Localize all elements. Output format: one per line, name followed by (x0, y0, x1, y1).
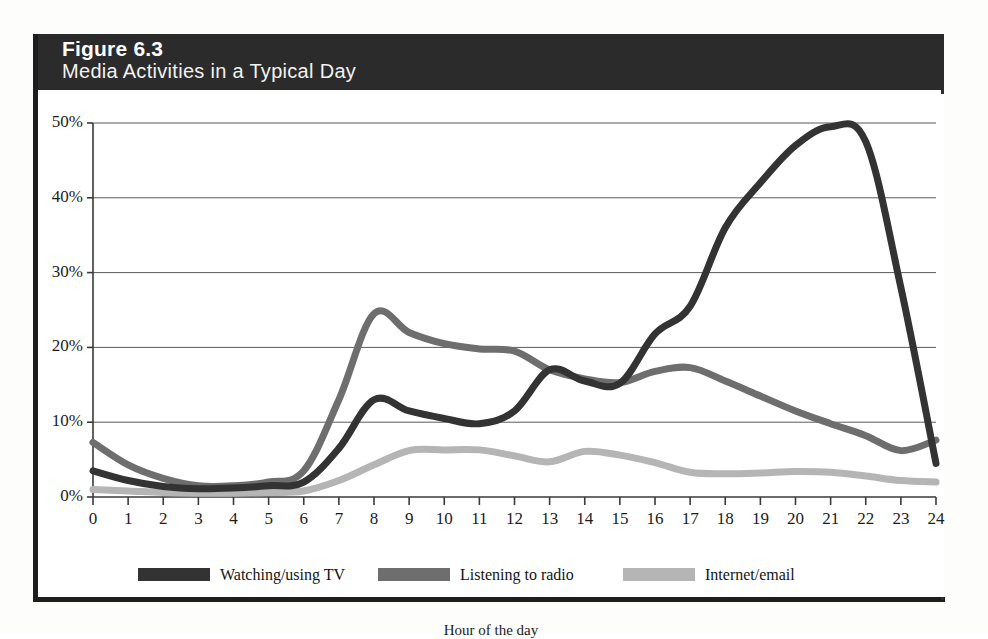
legend-label: Listening to radio (460, 566, 574, 584)
x-tick-label: 9 (394, 509, 424, 529)
x-tick-label: 17 (675, 509, 705, 529)
legend-swatch-icon (623, 568, 695, 581)
x-tick-label: 24 (921, 509, 951, 529)
x-tick-label: 13 (535, 509, 565, 529)
x-tick-label: 23 (886, 509, 916, 529)
frame-border-bottom (33, 597, 945, 602)
y-tick-label: 30% (31, 262, 83, 282)
x-tick-label: 5 (254, 509, 284, 529)
x-tick-label: 3 (183, 509, 213, 529)
x-tick-label: 4 (219, 509, 249, 529)
x-tick-label: 14 (570, 509, 600, 529)
x-tick-label: 19 (745, 509, 775, 529)
x-tick-label: 22 (851, 509, 881, 529)
plot-area: 0%10%20%30%40%50% 0123456789101112131415… (38, 94, 944, 597)
x-tick-label: 18 (710, 509, 740, 529)
x-tick-label: 0 (78, 509, 108, 529)
y-tick-label: 50% (31, 112, 83, 132)
x-axis-title: Hour of the day (38, 622, 944, 639)
x-tick-label: 15 (605, 509, 635, 529)
legend-label: Internet/email (705, 566, 795, 584)
x-tick-label: 10 (429, 509, 459, 529)
legend-item[interactable]: Listening to radio (378, 565, 574, 587)
legend-swatch-icon (138, 568, 210, 581)
figure-number: Figure 6.3 (62, 37, 163, 61)
legend-label: Watching/using TV (220, 566, 345, 584)
y-tick-label: 0% (31, 486, 83, 506)
x-tick-label: 2 (148, 509, 178, 529)
y-tick-label: 20% (31, 336, 83, 356)
x-tick-label: 1 (113, 509, 143, 529)
chart-legend: Watching/using TVListening to radioInter… (38, 565, 944, 591)
x-tick-label: 6 (289, 509, 319, 529)
figure-title: Media Activities in a Typical Day (62, 60, 356, 83)
series-line (93, 311, 936, 487)
y-tick-label: 40% (31, 187, 83, 207)
figure-header: Figure 6.3 Media Activities in a Typical… (38, 34, 944, 90)
x-tick-label: 12 (500, 509, 530, 529)
x-tick-label: 8 (359, 509, 389, 529)
x-tick-label: 21 (816, 509, 846, 529)
x-tick-label: 11 (464, 509, 494, 529)
x-tick-label: 20 (781, 509, 811, 529)
legend-item[interactable]: Internet/email (623, 565, 795, 587)
y-tick-label: 10% (31, 411, 83, 431)
legend-swatch-icon (378, 568, 450, 581)
x-tick-label: 7 (324, 509, 354, 529)
x-tick-label: 16 (640, 509, 670, 529)
legend-item[interactable]: Watching/using TV (138, 565, 345, 587)
series-line (93, 123, 936, 488)
